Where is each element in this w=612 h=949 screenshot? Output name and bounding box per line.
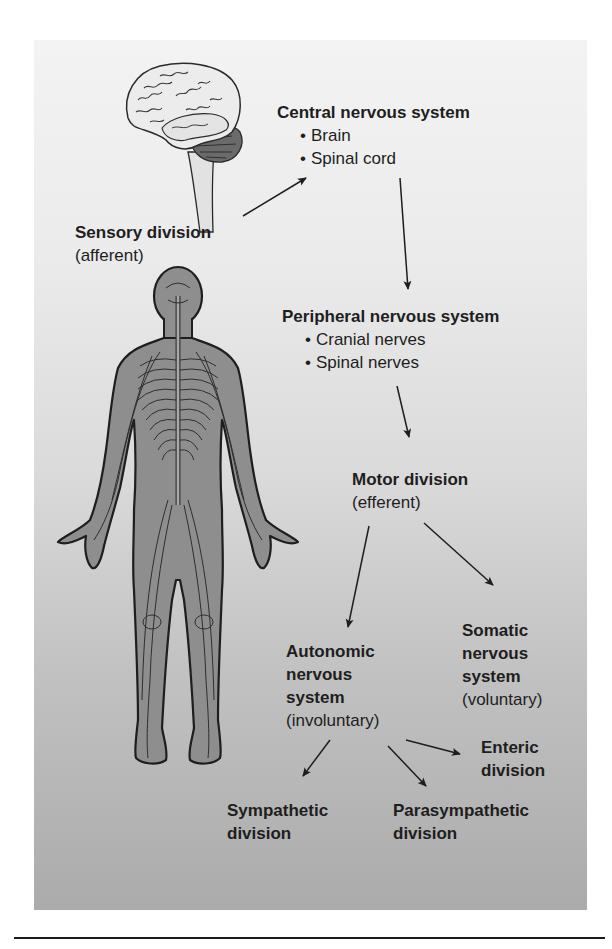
node-sympathetic-division: Sympathetic division bbox=[227, 799, 328, 845]
arrow-motor-to-autonomic bbox=[348, 526, 369, 627]
autonomic-title-line-2: nervous bbox=[286, 663, 380, 686]
arrow-pns-to-motor bbox=[397, 386, 409, 437]
parasympathetic-title-line-2: division bbox=[393, 822, 529, 845]
enteric-title-line-1: Enteric bbox=[481, 736, 545, 759]
autonomic-subtitle: (involuntary) bbox=[286, 709, 380, 732]
arrow-cns-to-pns bbox=[400, 178, 408, 289]
sympathetic-title-line-2: division bbox=[227, 822, 328, 845]
node-motor-division: Motor division (efferent) bbox=[352, 468, 468, 514]
node-autonomic-nervous-system: Autonomic nervous system (involuntary) bbox=[286, 640, 380, 732]
arrow-autonomic-to-parasympathetic bbox=[388, 746, 426, 786]
autonomic-title-line-3: system bbox=[286, 686, 380, 709]
node-peripheral-nervous-system: Peripheral nervous system Cranial nerves… bbox=[282, 305, 499, 374]
node-parasympathetic-division: Parasympathetic division bbox=[393, 799, 529, 845]
somatic-subtitle: (voluntary) bbox=[462, 688, 542, 711]
autonomic-title-line-1: Autonomic bbox=[286, 640, 380, 663]
parasympathetic-title-line-1: Parasympathetic bbox=[393, 799, 529, 822]
node-sensory-division: Sensory division (afferent) bbox=[75, 221, 211, 267]
sensory-subtitle: (afferent) bbox=[75, 244, 211, 267]
cns-item-spinal-cord: Spinal cord bbox=[277, 147, 470, 170]
pns-title: Peripheral nervous system bbox=[282, 305, 499, 328]
bottom-rule-divider bbox=[14, 937, 605, 939]
arrow-motor-to-somatic bbox=[424, 523, 493, 585]
arrow-autonomic-to-sympathetic bbox=[303, 740, 330, 776]
node-central-nervous-system: Central nervous system Brain Spinal cord bbox=[277, 101, 470, 170]
sympathetic-title-line-1: Sympathetic bbox=[227, 799, 328, 822]
sensory-title: Sensory division bbox=[75, 221, 211, 244]
motor-subtitle: (efferent) bbox=[352, 491, 468, 514]
pns-item-spinal-nerves: Spinal nerves bbox=[282, 351, 499, 374]
node-enteric-division: Enteric division bbox=[481, 736, 545, 782]
arrow-autonomic-to-enteric bbox=[406, 740, 460, 754]
pns-item-cranial-nerves: Cranial nerves bbox=[282, 328, 499, 351]
brain-icon bbox=[127, 63, 242, 232]
somatic-title-line-2: nervous bbox=[462, 642, 542, 665]
node-somatic-nervous-system: Somatic nervous system (voluntary) bbox=[462, 619, 542, 711]
cns-title: Central nervous system bbox=[277, 101, 470, 124]
somatic-title-line-3: system bbox=[462, 665, 542, 688]
motor-title: Motor division bbox=[352, 468, 468, 491]
somatic-title-line-1: Somatic bbox=[462, 619, 542, 642]
human-body-nervous-system-icon bbox=[58, 267, 298, 764]
enteric-title-line-2: division bbox=[481, 759, 545, 782]
cns-item-brain: Brain bbox=[277, 124, 470, 147]
arrow-sensory-to-cns bbox=[243, 178, 306, 216]
